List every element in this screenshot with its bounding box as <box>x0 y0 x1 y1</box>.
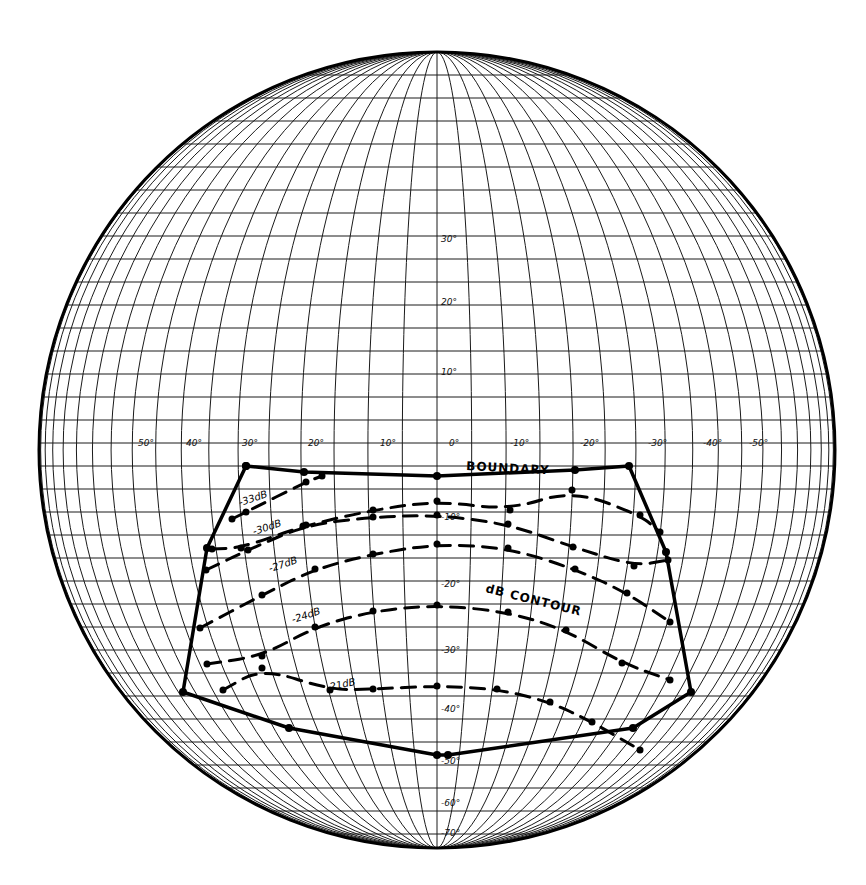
db24-label: -24dB <box>290 605 322 625</box>
contour-point <box>259 592 266 599</box>
contour-point <box>569 487 576 494</box>
meridian-line <box>53 52 437 848</box>
contour-point <box>312 566 319 573</box>
contour-point <box>434 683 441 690</box>
latitude-label: -20° <box>441 579 460 589</box>
contour-point <box>637 747 644 754</box>
contour-point <box>434 512 441 519</box>
longitude-label: -30° <box>648 438 667 448</box>
meridian-line <box>437 52 573 848</box>
contour-point <box>505 521 512 528</box>
boundary-point <box>285 724 293 732</box>
contour-point <box>238 545 245 552</box>
db-contour-line <box>207 607 670 680</box>
boundary-point <box>444 751 452 759</box>
latitude-label: 30° <box>441 234 457 244</box>
meridian-line <box>437 52 742 848</box>
contour-point <box>370 608 377 615</box>
contour-point <box>665 557 672 564</box>
contour-point <box>220 687 227 694</box>
contour-point <box>624 590 631 597</box>
longitude-label: 30° <box>242 438 258 448</box>
meridian-line <box>132 52 437 848</box>
meridian-line <box>402 52 437 848</box>
meridian-line <box>334 52 437 848</box>
longitude-label: -10° <box>510 438 529 448</box>
contour-point <box>204 661 211 668</box>
boundary-point <box>662 548 670 556</box>
contour-point <box>203 567 210 574</box>
contour-point <box>434 498 441 505</box>
contour-point <box>229 516 236 523</box>
contour-point <box>197 625 204 632</box>
contour-point <box>667 677 674 684</box>
contour-point <box>572 566 579 573</box>
longitude-label: 20° <box>308 438 324 448</box>
meridian-line <box>437 52 718 848</box>
contour-point <box>505 609 512 616</box>
contour-point <box>245 547 252 554</box>
meridian-line <box>76 52 437 848</box>
db-contour-line <box>223 674 640 751</box>
contour-point <box>370 507 377 514</box>
latitude-label: -40° <box>441 704 460 714</box>
boundary-point <box>300 468 308 476</box>
contour-point <box>563 627 570 634</box>
contour-point <box>631 563 638 570</box>
contour-point <box>507 507 514 514</box>
contour-point <box>637 512 644 519</box>
contour-point <box>259 653 266 660</box>
meridian-line <box>301 52 437 848</box>
contour-point <box>370 551 377 558</box>
meridian-line <box>437 52 540 848</box>
db27-label: -27dB <box>267 554 299 574</box>
contour-point <box>505 545 512 552</box>
contour-point <box>667 619 674 626</box>
latitude-label: 10° <box>441 367 457 377</box>
meridian-line <box>63 52 437 848</box>
latitude-label: 20° <box>441 297 457 307</box>
boundary-point <box>433 472 441 480</box>
longitude-label: -50° <box>749 438 768 448</box>
contour-point <box>259 665 266 672</box>
meridian-line <box>437 52 782 848</box>
latitude-label: -70° <box>441 828 460 838</box>
boundary-point <box>242 462 250 470</box>
boundary-point <box>179 688 187 696</box>
meridian-line <box>41 52 437 848</box>
globe-diagram: 50°40°30°20°10°0°-10°-20°-30°-40°-50° 30… <box>0 0 866 885</box>
contour-point <box>319 473 326 480</box>
meridian-line <box>45 52 437 848</box>
contour-point <box>619 660 626 667</box>
contour-point <box>657 529 664 536</box>
contour-point <box>370 514 377 521</box>
meridian-line <box>437 52 472 848</box>
contour-point <box>547 699 554 706</box>
db33-label: -33dB <box>237 488 269 508</box>
contour-point <box>494 686 501 693</box>
boundary-point <box>625 462 633 470</box>
boundary-point <box>687 688 695 696</box>
contour-point <box>434 602 441 609</box>
latitude-label: -30° <box>441 645 460 655</box>
meridian-line <box>92 52 437 848</box>
boundary-point <box>203 544 211 552</box>
longitude-label: 40° <box>186 438 202 448</box>
latitude-label: -60° <box>441 798 460 808</box>
longitude-label: -20° <box>580 438 599 448</box>
contour-point <box>434 541 441 548</box>
contour-point <box>243 509 250 516</box>
meridian-line <box>238 52 437 848</box>
contour-point <box>589 719 596 726</box>
longitude-label: 50° <box>138 438 154 448</box>
longitude-label: 10° <box>380 438 396 448</box>
lat-long-grid <box>0 52 866 848</box>
contour-point <box>303 479 310 486</box>
boundary-point <box>629 724 637 732</box>
longitude-label: -40° <box>703 438 722 448</box>
contour-point <box>370 686 377 693</box>
boundary-point <box>433 751 441 759</box>
boundary-point <box>571 466 579 474</box>
longitude-label: 0° <box>449 438 459 448</box>
contour-point <box>570 544 577 551</box>
